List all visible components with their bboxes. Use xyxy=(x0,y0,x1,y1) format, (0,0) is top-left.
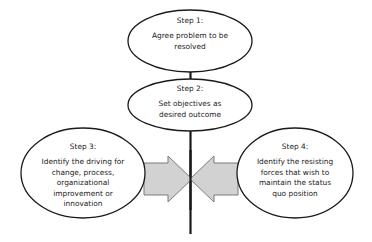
driving-forces-arrow xyxy=(144,156,192,202)
resisting-forces-arrow xyxy=(190,156,238,202)
step-3-ellipse[interactable] xyxy=(21,128,145,218)
force-field-diagram xyxy=(0,0,372,242)
step-2-ellipse[interactable] xyxy=(128,79,252,131)
step-4-ellipse[interactable] xyxy=(237,128,353,218)
step-1-ellipse[interactable] xyxy=(128,10,252,72)
diagram-canvas: Step 1: Agree problem to be resolved Ste… xyxy=(0,0,372,242)
